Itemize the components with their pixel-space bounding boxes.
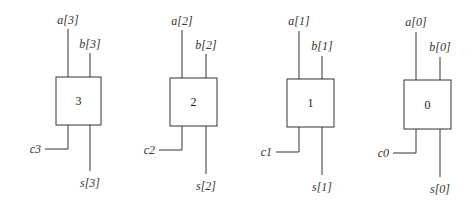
adder-diagram: 3 a[3] b[3] c3 s[3] 2 a[2] b[2] c2 s[2] … — [0, 0, 474, 205]
c-label: c2 — [144, 143, 155, 157]
b-label: b[2] — [195, 38, 217, 52]
c-wire — [45, 125, 68, 149]
b-label: b[3] — [79, 37, 101, 51]
c-wire — [159, 126, 182, 150]
block-0: 0 a[0] b[0] c0 s[0] — [378, 15, 451, 196]
a-label: a[1] — [288, 14, 310, 28]
s-label: s[0] — [430, 182, 450, 196]
block-number: 1 — [308, 96, 314, 110]
a-label: a[0] — [405, 15, 427, 29]
c-wire — [393, 129, 416, 153]
a-label: a[2] — [171, 14, 193, 28]
c-label: c1 — [261, 145, 272, 159]
block-number: 2 — [191, 95, 197, 109]
c-wire — [276, 127, 299, 152]
c-label: c3 — [30, 142, 41, 156]
block-2: 2 a[2] b[2] c2 s[2] — [144, 14, 217, 193]
b-label: b[0] — [429, 40, 451, 54]
block-number: 3 — [76, 94, 82, 108]
s-label: s[1] — [312, 180, 332, 194]
s-label: s[2] — [196, 179, 216, 193]
block-3: 3 a[3] b[3] c3 s[3] — [30, 13, 101, 190]
c-label: c0 — [378, 146, 389, 160]
block-number: 0 — [425, 98, 431, 112]
block-1: 1 a[1] b[1] c1 s[1] — [261, 14, 334, 194]
b-label: b[1] — [311, 39, 333, 53]
s-label: s[3] — [80, 176, 100, 190]
a-label: a[3] — [57, 13, 79, 27]
